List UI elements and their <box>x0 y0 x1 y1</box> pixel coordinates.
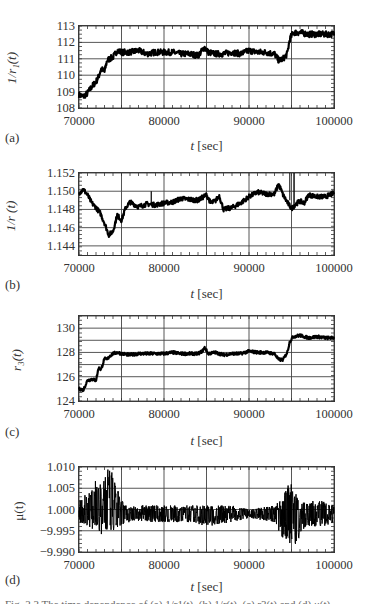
y-axis-label: μ(t) <box>11 501 27 520</box>
y-tick-label: 1.000 <box>47 504 75 516</box>
panel-d: μ(t) (d) t [sec] −9.990−9.9951.0001.0051… <box>0 0 371 604</box>
x-axis-unit: [sec] <box>194 579 223 594</box>
x-axis-label: t [sec] <box>0 579 371 595</box>
x-tick-label: 70000 <box>63 559 94 571</box>
y-tick-label: −9.995 <box>40 525 75 537</box>
figure-caption: Fig. 2.3 The time dependence of (a) 1/r1… <box>5 596 365 604</box>
y-tick-label: 1.010 <box>47 461 75 473</box>
x-tick-label: 100000 <box>315 559 353 571</box>
x-tick-label: 80000 <box>148 559 179 571</box>
plot-area <box>79 467 334 552</box>
x-tick-label: 90000 <box>233 559 264 571</box>
y-tick-label: −9.990 <box>40 546 75 558</box>
plot-frame <box>78 466 335 553</box>
y-tick-label: 1.005 <box>47 482 75 494</box>
